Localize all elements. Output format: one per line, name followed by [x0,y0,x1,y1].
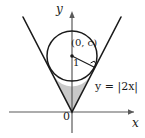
right-angle-mark [91,61,97,65]
equation-label: y = |2x| [95,81,138,92]
x-axis-arrowhead [128,109,134,114]
origin-label: 0 [63,111,70,122]
center-point-label: (0, c) [71,38,97,48]
radius-length-label: 1 [73,58,79,68]
figure-canvas [0,0,145,138]
math-figure: y x 0 (0, c) 1 y = |2x| [0,0,145,138]
x-axis-label: x [132,117,139,129]
y-axis-label: y [56,3,63,15]
y-axis-arrowhead [69,11,74,18]
